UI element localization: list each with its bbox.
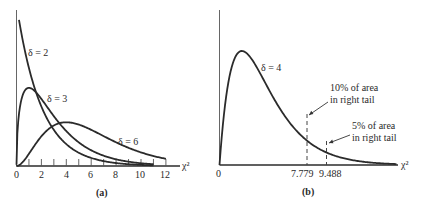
arrowhead-5-percent xyxy=(329,140,333,144)
tick-label-6: 6 xyxy=(88,169,93,180)
critical-value-7-779: 7.779 xyxy=(291,168,314,179)
label-df-4: δ = 4 xyxy=(261,62,281,73)
panel-a-caption: (a) xyxy=(96,187,108,199)
annotation-5-line2: in right tail xyxy=(352,132,397,143)
label-df-2: δ = 2 xyxy=(28,47,48,58)
panel-a: δ = 2 δ = 3 δ = 6 0 2 4 6 8 10 12 χ² (a) xyxy=(14,10,189,199)
tick-label-2: 2 xyxy=(39,169,44,180)
curve-df-4 xyxy=(220,51,397,165)
tick-label-12: 12 xyxy=(160,169,170,180)
annotation-10-line2: in right tail xyxy=(330,94,375,105)
tick-label-8: 8 xyxy=(113,169,118,180)
panel-b-x-axis-label: χ² xyxy=(400,159,408,170)
chi-square-figure: δ = 2 δ = 3 δ = 6 0 2 4 6 8 10 12 χ² (a)… xyxy=(0,0,425,210)
label-df-3: δ = 3 xyxy=(47,93,67,104)
tick-label-4: 4 xyxy=(64,169,69,180)
annotation-5-line1: 5% of area xyxy=(352,120,396,131)
annotation-10-line1: 10% of area xyxy=(330,82,379,93)
critical-value-9-488: 9.488 xyxy=(319,168,342,179)
panel-b-caption: (b) xyxy=(302,186,314,198)
panel-b-origin-label: 0 xyxy=(216,168,221,179)
label-df-6: δ = 6 xyxy=(118,136,138,147)
panel-b: δ = 4 10% of area in right tail 5% of ar… xyxy=(216,10,408,198)
panel-a-x-axis-label: χ² xyxy=(181,160,189,171)
tick-label-10: 10 xyxy=(135,169,145,180)
tick-label-0: 0 xyxy=(14,169,19,180)
